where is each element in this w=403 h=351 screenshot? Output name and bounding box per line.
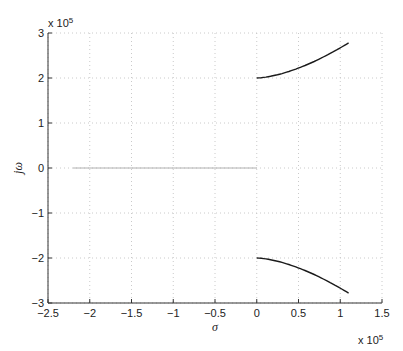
x-exponent-label: x 105 <box>358 333 384 346</box>
y-tick-label: −2 <box>31 252 44 264</box>
y-tick-label: 0 <box>38 162 44 174</box>
y-tick-label: 2 <box>38 72 44 84</box>
x-tick-labels: −2.5−2−1.5−1−0.500.511.5 <box>37 307 390 319</box>
x-tick-label: −1 <box>167 307 180 319</box>
x-tick-label: 0 <box>254 307 260 319</box>
series-line-upper-branch <box>257 43 349 78</box>
x-tick-label: 1.5 <box>374 307 389 319</box>
y-tick-label: −3 <box>31 297 44 309</box>
y-tick-label: 3 <box>38 27 44 39</box>
x-tick-label: 1 <box>337 307 343 319</box>
x-axis-label: σ <box>212 320 219 334</box>
y-tick-label: −1 <box>31 207 44 219</box>
x-tick-label: 0.5 <box>291 307 306 319</box>
y-axis-label: jω <box>11 162 25 176</box>
x-tick-label: −1.5 <box>121 307 143 319</box>
y-tick-label: 1 <box>38 117 44 129</box>
y-tick-labels: −3−2−10123 <box>31 27 44 309</box>
x-tick-label: −0.5 <box>204 307 226 319</box>
x-tick-label: −2 <box>83 307 96 319</box>
y-exponent-label: x 105 <box>48 16 74 29</box>
data-series <box>73 43 349 293</box>
root-locus-chart: −2.5−2−1.5−1−0.500.511.5 −3−2−10123 σ jω… <box>0 0 403 351</box>
series-line-lower-branch <box>257 258 349 293</box>
